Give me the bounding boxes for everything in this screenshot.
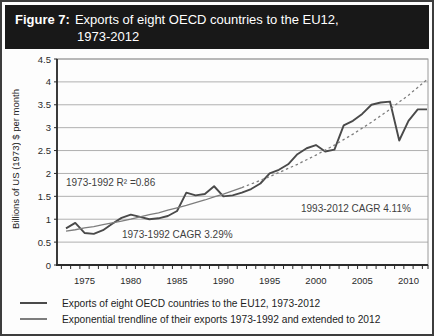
svg-text:4.5: 4.5	[38, 54, 51, 65]
svg-text:1985: 1985	[167, 275, 188, 286]
annotation-cagr-1993-2012: 1993-2012 CAGR 4.11%	[301, 203, 411, 214]
figure-header: Figure 7:Exports of eight OECD countries…	[5, 5, 429, 49]
y-axis-title: Billions of US (1973) $ per month	[10, 51, 21, 267]
figure-label: Figure 7:	[15, 12, 70, 27]
svg-text:3.5: 3.5	[38, 99, 51, 110]
exports-line-swatch	[20, 302, 47, 304]
chart-canvas: 00.511.522.533.544.519751980198519901995…	[5, 51, 429, 291]
svg-text:3: 3	[46, 122, 51, 133]
figure-title-text: Exports of eight OECD countries to the E…	[75, 12, 339, 27]
svg-text:2010: 2010	[398, 275, 419, 286]
legend-item-trendline: Exponential trendline of their exports 1…	[20, 311, 429, 327]
figure-title-line2: 1973-2012	[77, 28, 421, 45]
svg-text:0.5: 0.5	[38, 237, 51, 248]
svg-text:1990: 1990	[213, 275, 234, 286]
annotation-r-squared: 1973-1992 R² =0.86	[66, 177, 155, 188]
svg-text:1.5: 1.5	[38, 191, 51, 202]
svg-text:1980: 1980	[120, 275, 141, 286]
trendline-swatch	[20, 318, 47, 320]
figure-7: Figure 7:Exports of eight OECD countries…	[0, 0, 434, 336]
svg-text:4: 4	[46, 76, 51, 87]
svg-text:2: 2	[46, 168, 51, 179]
svg-text:2000: 2000	[305, 275, 326, 286]
svg-text:0: 0	[46, 260, 51, 271]
svg-text:1995: 1995	[259, 275, 280, 286]
annotation-cagr-1973-1992: 1973-1992 CAGR 3.29%	[122, 229, 233, 240]
legend-item-exports: Exports of eight OECD countries to the E…	[20, 295, 429, 311]
legend-label-trendline: Exponential trendline of their exports 1…	[62, 314, 380, 325]
chart-area: 00.511.522.533.544.519751980198519901995…	[5, 51, 429, 291]
svg-text:2005: 2005	[352, 275, 373, 286]
legend-label-exports: Exports of eight OECD countries to the E…	[62, 298, 320, 309]
figure-title-line1: Figure 7:Exports of eight OECD countries…	[15, 11, 421, 28]
legend: Exports of eight OECD countries to the E…	[5, 291, 429, 327]
svg-text:2.5: 2.5	[38, 145, 51, 156]
svg-text:1975: 1975	[74, 275, 95, 286]
svg-text:1: 1	[46, 214, 51, 225]
